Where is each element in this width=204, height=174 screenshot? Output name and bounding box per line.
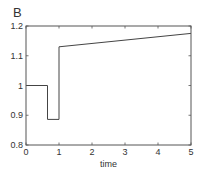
- data-series-line: [26, 33, 191, 119]
- axis-ticks: [26, 26, 191, 145]
- x-tick-label: 4: [155, 147, 160, 157]
- panel-label: B: [13, 5, 22, 20]
- y-tick-label: 1.2: [10, 21, 23, 31]
- x-tick-label: 3: [122, 147, 127, 157]
- y-tick-label: 1: [18, 81, 23, 91]
- chart-figure: B 0123450.80.911.11.2 time: [0, 0, 204, 174]
- tick-labels: 0123450.80.911.11.2: [10, 21, 193, 157]
- y-tick-label: 1.1: [10, 51, 23, 61]
- x-tick-label: 5: [188, 147, 193, 157]
- y-tick-label: 0.9: [10, 110, 23, 120]
- y-tick-label: 0.8: [10, 140, 23, 150]
- line-chart: B 0123450.80.911.11.2 time: [0, 0, 204, 174]
- x-tick-label: 1: [56, 147, 61, 157]
- x-tick-label: 2: [89, 147, 94, 157]
- plot-area-border: [26, 26, 191, 145]
- x-axis-label: time: [100, 159, 117, 169]
- x-tick-label: 0: [23, 147, 28, 157]
